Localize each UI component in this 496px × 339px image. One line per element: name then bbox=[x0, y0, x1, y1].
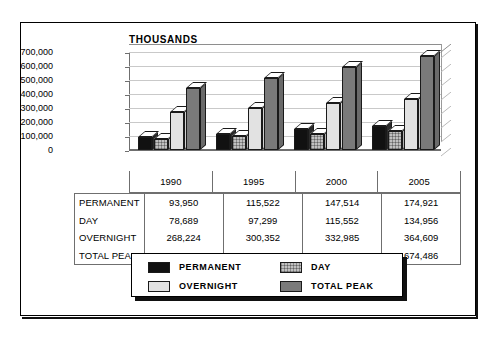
gridline-depth bbox=[441, 129, 452, 138]
y-tick-label: 100,000 bbox=[0, 131, 53, 141]
x-axis-label-2000: 2000 bbox=[295, 171, 378, 193]
bar-overnight-1990 bbox=[170, 112, 184, 150]
plot-area bbox=[129, 52, 441, 150]
bar-side-face bbox=[200, 83, 206, 150]
bar-day-1990 bbox=[154, 139, 168, 150]
bar-face bbox=[310, 134, 324, 150]
gridline-depth bbox=[441, 101, 452, 110]
bar-face bbox=[388, 131, 402, 150]
bar-permanent-2005 bbox=[372, 126, 386, 150]
bar-overnight-2000 bbox=[326, 103, 340, 150]
table-cell: 174,921 bbox=[382, 194, 460, 212]
bar-face bbox=[294, 129, 308, 150]
table-cell: 134,956 bbox=[382, 212, 460, 230]
table-cell: 78,689 bbox=[144, 212, 223, 230]
x-axis-label-2005: 2005 bbox=[377, 171, 461, 193]
table-cell: 93,950 bbox=[144, 194, 223, 212]
y-tick-label: 300,000 bbox=[0, 103, 53, 113]
x-axis-label-1990: 1990 bbox=[129, 171, 212, 193]
legend-row: PERMANENT DAY bbox=[132, 258, 404, 276]
legend-swatch-overnight-icon bbox=[148, 281, 170, 292]
table-cell: 97,299 bbox=[223, 212, 302, 230]
legend-label-overnight: OVERNIGHT bbox=[179, 281, 238, 291]
gridline bbox=[129, 150, 441, 151]
y-tick-label: 700,000 bbox=[0, 47, 53, 57]
bar-overnight-2005 bbox=[404, 99, 418, 150]
legend-label-permanent: PERMANENT bbox=[179, 262, 241, 272]
bar-group-2005 bbox=[363, 52, 441, 150]
legend-item-overnight: OVERNIGHT bbox=[148, 277, 280, 295]
table-cell: 147,514 bbox=[302, 194, 381, 212]
chart-frame: THOUSANDS 0100,000200,000300,000400,0005… bbox=[20, 22, 476, 316]
table-row: DAY78,68997,299115,552134,956 bbox=[75, 212, 460, 230]
legend-item-permanent: PERMANENT bbox=[148, 258, 280, 276]
legend-swatch-permanent-icon bbox=[148, 262, 170, 273]
bar-day-2000 bbox=[310, 134, 324, 150]
y-tick-mark bbox=[125, 151, 129, 152]
bar-side-face bbox=[434, 51, 440, 150]
gridline-depth bbox=[441, 87, 452, 96]
bar-face bbox=[372, 126, 386, 150]
table-cell: 115,522 bbox=[223, 194, 302, 212]
x-axis-label-1995: 1995 bbox=[212, 171, 295, 193]
bar-face bbox=[186, 88, 200, 150]
bar-face bbox=[232, 136, 246, 150]
gridline-depth bbox=[441, 45, 452, 54]
bar-face bbox=[216, 134, 230, 150]
legend-label-totalpeak: TOTAL PEAK bbox=[311, 281, 374, 291]
legend-row: OVERNIGHT TOTAL PEAK bbox=[132, 277, 404, 295]
gridline-depth bbox=[441, 115, 452, 124]
bar-side-face bbox=[278, 73, 284, 150]
frame-shadow-bottom bbox=[22, 317, 478, 319]
table-cell: 300,352 bbox=[223, 229, 302, 247]
y-tick-label: 200,000 bbox=[0, 117, 53, 127]
legend-item-day: DAY bbox=[280, 258, 400, 276]
bar-totalpeak-1990 bbox=[186, 88, 200, 150]
legend-swatch-totalpeak-icon bbox=[280, 281, 302, 292]
table-row: OVERNIGHT268,224300,352332,985364,609 bbox=[75, 229, 460, 247]
bar-face bbox=[326, 103, 340, 150]
bar-face bbox=[154, 139, 168, 150]
table-cell: 115,552 bbox=[302, 212, 381, 230]
y-tick-label: 0 bbox=[0, 145, 53, 155]
bar-overnight-1995 bbox=[248, 108, 262, 150]
bar-totalpeak-2005 bbox=[420, 56, 434, 150]
bar-permanent-1990 bbox=[138, 137, 152, 150]
chart-legend: PERMANENT DAY OVERNIGHT TOTAL PEAK bbox=[131, 253, 403, 297]
bar-face bbox=[138, 137, 152, 150]
bar-group-2000 bbox=[285, 52, 363, 150]
table-row-label: PERMANENT bbox=[75, 194, 144, 212]
table-cell: 332,985 bbox=[302, 229, 381, 247]
table-cell: 364,609 bbox=[382, 229, 460, 247]
y-tick-label: 500,000 bbox=[0, 75, 53, 85]
table-row-label: OVERNIGHT bbox=[75, 229, 144, 247]
bar-group-1995 bbox=[207, 52, 285, 150]
bar-totalpeak-2000 bbox=[342, 67, 356, 150]
bar-day-1995 bbox=[232, 136, 246, 150]
bar-side-face bbox=[356, 62, 362, 150]
bar-totalpeak-1995 bbox=[264, 78, 278, 150]
bar-face bbox=[264, 78, 278, 150]
gridline-depth bbox=[441, 73, 452, 82]
bar-permanent-1995 bbox=[216, 134, 230, 150]
bar-permanent-2000 bbox=[294, 129, 308, 150]
bar-chart: THOUSANDS 0100,000200,000300,000400,0005… bbox=[21, 23, 477, 171]
y-tick-label: 400,000 bbox=[0, 89, 53, 99]
plot-back-wall-top bbox=[129, 44, 441, 52]
bar-day-2005 bbox=[388, 131, 402, 150]
legend-label-day: DAY bbox=[311, 262, 331, 272]
bar-face bbox=[248, 108, 262, 150]
gridline-depth bbox=[441, 59, 452, 68]
bar-face bbox=[404, 99, 418, 150]
x-axis-year-band: 1990199520002005 bbox=[74, 171, 461, 193]
legend-item-totalpeak: TOTAL PEAK bbox=[280, 277, 400, 295]
y-tick-label: 600,000 bbox=[0, 61, 53, 71]
gridline-depth bbox=[441, 143, 452, 152]
legend-shadow-bottom bbox=[135, 297, 407, 301]
legend-swatch-day-icon bbox=[280, 262, 302, 273]
bar-face bbox=[170, 112, 184, 150]
table-row-label: DAY bbox=[75, 212, 144, 230]
table-row: PERMANENT93,950115,522147,514174,921 bbox=[75, 194, 460, 212]
bar-face bbox=[420, 56, 434, 150]
bar-face bbox=[342, 67, 356, 150]
